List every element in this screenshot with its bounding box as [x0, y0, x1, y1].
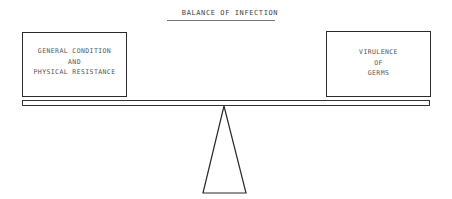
fulcrum-triangle-icon [0, 0, 452, 199]
